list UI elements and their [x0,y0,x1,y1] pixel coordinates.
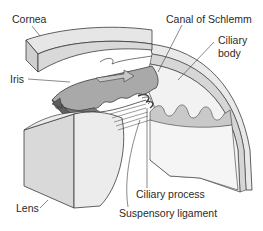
label-suspensory-ligament: Suspensory ligament [119,207,217,219]
label-canal-of-schlemm: Canal of Schlemm [166,13,252,25]
label-ciliary-process: Ciliary process [136,188,205,200]
label-ciliary-body-line2: body [218,47,247,60]
leader-iris [28,79,70,82]
leader-lens [40,200,48,208]
iris [52,66,158,120]
label-lens: Lens [16,202,39,214]
leader-cornea [32,26,40,36]
eye-anatomy-diagram: Cornea Canal of Schlemm Ciliary body Iri… [0,0,263,231]
lens [24,112,124,208]
cornea [26,27,152,72]
label-iris: Iris [10,73,24,85]
label-cornea: Cornea [12,13,46,25]
label-ciliary-body: Ciliary body [218,34,247,60]
label-ciliary-body-line1: Ciliary [218,34,247,47]
